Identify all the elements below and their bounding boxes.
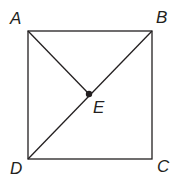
- label-e: E: [93, 98, 105, 117]
- segment-ae: [28, 31, 89, 94]
- point-e-dot: [86, 91, 92, 97]
- label-c: C: [157, 157, 170, 176]
- label-d: D: [10, 159, 22, 178]
- square-diagram: A B C D E: [0, 0, 179, 181]
- label-a: A: [9, 9, 21, 28]
- label-b: B: [156, 8, 167, 27]
